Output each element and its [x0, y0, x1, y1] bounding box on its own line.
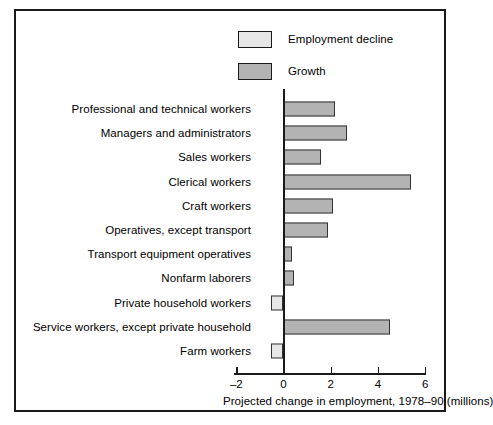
- x-axis: –20246: [234, 373, 426, 375]
- category-label: Transport equipment operatives: [88, 248, 251, 260]
- category-label: Professional and technical workers: [72, 103, 251, 115]
- x-axis-tick-label: 6: [422, 378, 428, 390]
- x-axis-tick-label: 2: [327, 378, 333, 390]
- bar-decline: [271, 295, 284, 310]
- chart-category-row: Managers and administrators: [16, 121, 448, 145]
- bar-growth: [284, 174, 411, 189]
- bar-growth: [284, 223, 329, 238]
- chart-category-row: Operatives, except transport: [16, 218, 448, 242]
- zero-axis-line: [283, 89, 285, 374]
- bar-growth: [284, 126, 348, 141]
- x-axis-title: Projected change in employment, 1978–90 …: [223, 395, 493, 407]
- chart-category-row: Transport equipment operatives: [16, 242, 448, 266]
- bar-growth: [284, 319, 390, 334]
- plot-area: Professional and technical workersManage…: [16, 97, 448, 362]
- category-label: Managers and administrators: [101, 127, 251, 139]
- x-axis-tick: [331, 367, 332, 373]
- category-label: Sales workers: [178, 151, 251, 163]
- chart-category-row: Professional and technical workers: [16, 97, 448, 121]
- category-label: Service workers, except private househol…: [33, 321, 251, 333]
- chart-category-row: Farm workers: [16, 339, 448, 363]
- chart-category-row: Nonfarm laborers: [16, 266, 448, 290]
- category-label: Farm workers: [180, 345, 251, 357]
- legend-label-growth: Growth: [288, 65, 326, 77]
- bar-growth: [284, 247, 292, 262]
- legend-swatch-employment-decline: [238, 31, 272, 48]
- category-label: Craft workers: [182, 200, 251, 212]
- chart-category-row: Private household workers: [16, 291, 448, 315]
- legend-label-employment-decline: Employment decline: [288, 33, 393, 45]
- legend-swatch-growth: [238, 63, 272, 80]
- chart-frame: Employment decline Growth Professional a…: [14, 9, 446, 412]
- category-label: Clerical workers: [168, 176, 251, 188]
- x-axis-tick-label: 0: [280, 378, 286, 390]
- legend-item-employment-decline: Employment decline: [238, 28, 393, 50]
- x-axis-tick: [425, 367, 426, 373]
- chart-category-row: Sales workers: [16, 145, 448, 169]
- category-label: Operatives, except transport: [105, 224, 251, 236]
- bar-growth: [284, 150, 322, 165]
- x-axis-tick: [378, 367, 379, 373]
- x-axis-tick: [284, 367, 285, 373]
- x-axis-tick-label: –2: [230, 378, 243, 390]
- chart-category-row: Service workers, except private househol…: [16, 315, 448, 339]
- x-axis-tick-label: 4: [375, 378, 381, 390]
- x-axis-tick: [236, 367, 237, 373]
- bar-growth: [284, 198, 334, 213]
- category-label: Private household workers: [114, 297, 251, 309]
- chart-category-row: Craft workers: [16, 194, 448, 218]
- chart-legend: Employment decline Growth: [238, 28, 393, 92]
- bar-growth: [284, 271, 295, 286]
- legend-item-growth: Growth: [238, 60, 393, 82]
- category-label: Nonfarm laborers: [161, 272, 251, 284]
- chart-category-row: Clerical workers: [16, 170, 448, 194]
- bar-decline: [271, 343, 284, 358]
- bar-growth: [284, 102, 336, 117]
